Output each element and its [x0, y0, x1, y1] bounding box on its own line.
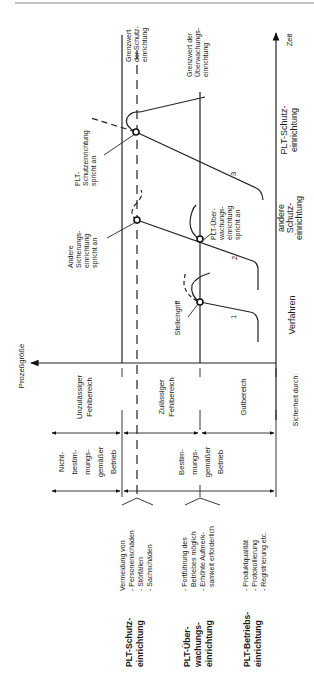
- legend-plt-operation-title: PLT-Betriebs- einrichtung: [242, 612, 263, 667]
- svg-text:Grenzwert der: Grenzwert der: [186, 32, 193, 77]
- svg-text:- Registrierung etc.: - Registrierung etc.: [260, 532, 268, 591]
- svg-text:spricht an: spricht an: [234, 210, 242, 240]
- permissible-range-label: Zulässiger Fehlbereich: [157, 377, 176, 417]
- plt-monitoring-trigger-label: PLT-Über- wachungs- einrichtung spricht …: [210, 205, 242, 241]
- safety-by-plt-protection: PLT-Schutz- einrichtung: [279, 106, 299, 155]
- brace-protection: [122, 498, 153, 505]
- time-axis-label: Zeit: [285, 33, 294, 47]
- svg-text:Betrieb: Betrieb: [109, 450, 118, 474]
- svg-text:Betriebes möglich: Betriebes möglich: [190, 531, 198, 591]
- svg-text:einrichtung: einrichtung: [289, 108, 299, 152]
- svg-text:der Schutz-: der Schutz-: [133, 26, 140, 62]
- svg-text:Bestim-: Bestim-: [177, 449, 186, 475]
- svg-text:PLT-Betriebs-: PLT-Betriebs-: [242, 612, 252, 667]
- svg-text:PLT-Über-: PLT-Über-: [210, 208, 217, 240]
- svg-text:mungs-: mungs-: [83, 449, 92, 475]
- control-action-label: Stelleingriff: [174, 301, 182, 336]
- safety-by-process: Verfahren: [287, 295, 297, 334]
- svg-text:Andere: Andere: [67, 245, 74, 268]
- impermissible-range-label: Unzulässiger Fehlbereich: [75, 375, 94, 419]
- plt-protection-trigger-label: PLT- Schutzeinrichtung spricht an: [74, 130, 98, 186]
- svg-text:Unzulässiger: Unzulässiger: [75, 375, 84, 419]
- monitoring-limit-label: Grenzwert der Überwachungs- einrichtung: [186, 27, 210, 77]
- other-safety-trigger-label: Andere Sicherungs- einrichtung spricht a…: [67, 230, 99, 268]
- safety-layers-diagram: Zeit Prozeßgröße Grenzwert der Schutz- e…: [0, 0, 314, 693]
- safety-by-other-protection: andere Schutz- einrichtung: [276, 196, 304, 240]
- svg-text:einrichtung: einrichtung: [141, 28, 149, 62]
- svg-text:einrichtung: einrichtung: [204, 620, 214, 667]
- curve-1-label: 1: [229, 315, 238, 319]
- svg-text:Fehlbereich: Fehlbereich: [167, 377, 176, 417]
- curve-2-label: 2: [230, 256, 239, 260]
- svg-text:bestim-: bestim-: [70, 449, 79, 474]
- svg-text:wachungs-: wachungs-: [193, 622, 203, 668]
- svg-text:Überwachungs-: Überwachungs-: [194, 27, 202, 77]
- legend-plt-protection-desc: Vermeidung von - Personenschäden - Störf…: [119, 530, 153, 591]
- good-range-label: Gutbereich: [239, 378, 248, 415]
- svg-text:- Erhöhte Aufmerk-: - Erhöhte Aufmerk-: [199, 532, 206, 591]
- svg-text:einrichtung: einrichtung: [202, 43, 210, 77]
- plt-protection-trigger-point: [133, 129, 139, 135]
- svg-text:- Produktqualität: - Produktqualität: [242, 540, 250, 591]
- svg-text:gemäßer: gemäßer: [96, 446, 105, 477]
- leader-line: [188, 304, 198, 317]
- unintended-operation-label: Nicht- bestim- mungs- gemäßer Betrieb: [57, 446, 118, 477]
- svg-text:gemäßer: gemäßer: [203, 446, 212, 477]
- svg-text:- Fortführung des: - Fortführung des: [181, 537, 189, 591]
- curve-3-loop: [126, 97, 205, 132]
- svg-text:- Sachschäden: - Sachschäden: [146, 544, 153, 591]
- svg-text:Schutzeinrichtung: Schutzeinrichtung: [82, 130, 90, 186]
- svg-text:einrichtung: einrichtung: [294, 196, 304, 240]
- svg-text:Nicht-: Nicht-: [57, 452, 66, 472]
- legend-plt-protection-title: PLT-Schutz- einrichtung: [124, 618, 145, 667]
- svg-text:PLT-Schutz-: PLT-Schutz-: [279, 106, 289, 155]
- svg-text:einrichtung: einrichtung: [226, 206, 234, 240]
- svg-text:Grenzwert: Grenzwert: [125, 30, 132, 62]
- curve-1-loop: [192, 273, 210, 302]
- process-variable-axis-label: Prozeßgröße: [17, 344, 26, 388]
- intended-operation-label: Bestim- mungs- gemäßer Betrieb: [177, 446, 225, 477]
- curve-3-label: 3: [229, 172, 238, 176]
- curve-1-dashed: [184, 272, 197, 301]
- legend-plt-monitoring-desc: - Fortführung des Betriebes möglich - Er…: [181, 526, 215, 591]
- svg-text:- Personenschäden: - Personenschäden: [128, 530, 135, 591]
- svg-text:spricht an: spricht an: [91, 238, 99, 268]
- legend-plt-operation-desc: - Produktqualität - Protokollierung - Re…: [242, 532, 268, 591]
- curve-1: [200, 302, 258, 342]
- svg-text:mungs-: mungs-: [190, 449, 199, 475]
- protection-limit-label: Grenzwert der Schutz- einrichtung: [125, 26, 149, 62]
- curve-2-loop: [190, 205, 200, 239]
- brace-monitoring: [185, 498, 220, 505]
- svg-text:PLT-Über-: PLT-Über-: [182, 626, 192, 667]
- svg-text:samkeit erforderlich: samkeit erforderlich: [208, 526, 215, 591]
- svg-text:Fehlbereich: Fehlbereich: [85, 377, 94, 417]
- safety-by-label: Sicherheit durch:: [292, 374, 299, 427]
- svg-text:Zulässiger: Zulässiger: [157, 379, 166, 414]
- svg-text:Sicherungs-: Sicherungs-: [75, 230, 83, 268]
- svg-text:einrichtung: einrichtung: [83, 234, 91, 268]
- svg-text:PLT-Schutz-: PLT-Schutz-: [124, 618, 134, 667]
- svg-text:- Protokollierung: - Protokollierung: [251, 540, 259, 591]
- svg-text:Vermeidung von: Vermeidung von: [119, 540, 127, 591]
- svg-text:Betrieb: Betrieb: [216, 450, 225, 474]
- svg-text:einrichtung: einrichtung: [135, 620, 145, 667]
- svg-text:wachungs-: wachungs-: [218, 205, 226, 241]
- svg-text:einrichtung: einrichtung: [253, 620, 263, 667]
- svg-text:- Störfällen: - Störfällen: [137, 557, 144, 591]
- curve-3-dashed: [91, 118, 136, 132]
- svg-text:PLT-: PLT-: [74, 171, 81, 186]
- leader-line: [104, 134, 135, 155]
- svg-text:spricht an: spricht an: [90, 156, 98, 186]
- legend-plt-monitoring-title: PLT-Über- wachungs- einrichtung: [182, 620, 214, 668]
